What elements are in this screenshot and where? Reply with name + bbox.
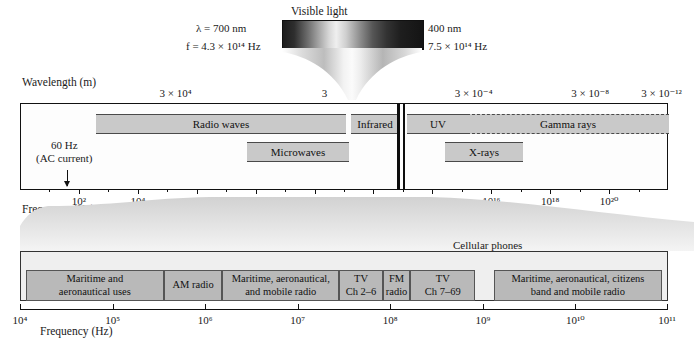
wavelength-tick-3: 3 × 10⁻⁸ (571, 88, 609, 99)
radio-band-line2: and mobile radio (232, 286, 330, 298)
top-axis-minor-tick (521, 189, 522, 192)
ac-current-line1: 60 Hz (36, 139, 93, 152)
bottom-axis-tick-0 (20, 304, 21, 309)
bottom-axis-tick-2 (205, 304, 206, 309)
bottom-axis-tick-6 (575, 304, 576, 309)
radio-band-am-radio: AM radio (164, 270, 222, 301)
radio-band-label: Maritime andaeronautical uses (59, 273, 131, 297)
radio-detail-panel: Maritime andaeronautical usesAM radioMar… (20, 251, 668, 301)
zoom-wedge (0, 196, 694, 251)
bottom-axis-tick-label-2: 10⁶ (198, 314, 213, 326)
spectrum-band-x-rays: X-rays (445, 142, 523, 162)
top-axis-tick-5 (373, 189, 374, 194)
radio-band-line1: FM (386, 273, 408, 285)
top-axis-tick-0 (79, 189, 80, 194)
wavelength-axis-title: Wavelength (m) (22, 77, 96, 89)
radio-band-maritime-aeronautical-citizens-band-and-mobile-radio: Maritime, aeronautical, citizensband and… (494, 270, 663, 301)
bottom-axis-tick-1 (113, 304, 114, 309)
radio-band-line1: Maritime and (59, 273, 131, 285)
visible-light-marker (397, 104, 400, 189)
full-spectrum-panel: Radio wavesInfraredUVGamma raysMicrowave… (20, 103, 668, 190)
visible-light-cone (282, 48, 422, 100)
band-label: Infrared (357, 118, 392, 130)
top-frequency-axis: 10²10⁴10⁶10⁸10¹⁰10¹²10¹⁴10¹⁶10¹⁸10²⁰ (20, 189, 668, 190)
radio-band-maritime-aeronautical-and-mobile-radio: Maritime, aeronautical,and mobile radio (222, 270, 339, 301)
top-axis-minor-tick (462, 189, 463, 192)
bottom-axis-tick-4 (390, 304, 391, 309)
top-axis-tick-8 (550, 189, 551, 194)
top-axis-minor-tick (226, 189, 227, 192)
cellular-phones-callout: Cellular phones (453, 240, 522, 251)
radio-band-line2: Ch 2–6 (346, 286, 377, 298)
band-label: UV (430, 118, 446, 130)
visible-left-wavelength: λ = 700 nm (196, 23, 246, 34)
band-label: X-rays (469, 146, 499, 158)
band-label: Radio waves (193, 118, 250, 130)
spectrum-band-infrared: Infrared (351, 114, 399, 134)
top-axis-minor-tick (580, 189, 581, 192)
radio-band-line1: TV (346, 273, 377, 285)
top-axis-minor-tick (285, 189, 286, 192)
top-axis-tick-3 (256, 189, 257, 194)
visible-right-frequency: 7.5 × 10¹⁴ Hz (428, 41, 487, 52)
radio-band-label: FMradio (386, 273, 408, 297)
ac-current-arrow-icon (67, 170, 68, 186)
ac-current-annotation: 60 Hz (AC current) (36, 139, 93, 165)
top-axis-tick-7 (491, 189, 492, 194)
wavelength-tick-0: 3 × 10⁴ (159, 88, 191, 99)
visible-light-title: Visible light (291, 6, 348, 18)
spectrum-band-gamma-rays: Gamma rays (467, 114, 669, 134)
radio-band-line2: aeronautical uses (59, 286, 131, 298)
wavelength-tick-4: 3 × 10⁻¹² (641, 88, 682, 99)
radio-band-label: AM radio (173, 279, 214, 291)
top-axis-minor-tick (108, 189, 109, 192)
top-axis-tick-9 (609, 189, 610, 194)
bottom-axis-tick-7 (667, 304, 668, 309)
radio-band-label: Maritime, aeronautical, citizensband and… (511, 273, 644, 297)
radio-band-line2: radio (386, 286, 408, 298)
top-axis-minor-tick (167, 189, 168, 192)
radio-band-line1: TV (425, 273, 461, 285)
top-axis-tick-4 (315, 189, 316, 194)
top-axis-minor-tick (403, 189, 404, 192)
radio-band-label: Maritime, aeronautical,and mobile radio (232, 273, 330, 297)
band-label: Microwaves (271, 146, 325, 158)
top-axis-minor-tick (344, 189, 345, 192)
radio-band-line1: AM radio (173, 279, 214, 291)
visible-spectrum-bar (282, 20, 424, 50)
bottom-axis-tick-label-6: 10¹⁰ (566, 314, 585, 327)
top-axis-tick-2 (197, 189, 198, 194)
radio-band-label: TVCh 2–6 (346, 273, 377, 297)
spectrum-band-microwaves: Microwaves (247, 142, 349, 162)
radio-band-maritime-and-aeronautical-uses: Maritime andaeronautical uses (26, 270, 164, 301)
wavelength-tick-2: 3 × 10⁻⁴ (455, 88, 493, 99)
bottom-axis-tick-label-0: 10⁴ (13, 314, 28, 326)
bottom-axis-tick-3 (298, 304, 299, 309)
bottom-axis-tick-5 (483, 304, 484, 309)
radio-band-line2: Ch 7–69 (425, 286, 461, 298)
top-axis-minor-tick (639, 189, 640, 192)
bottom-frequency-axis-title: Frequency (Hz) (40, 326, 112, 338)
bottom-frequency-axis: 10⁴10⁵10⁶10⁷10⁸10⁹10¹⁰10¹¹ (20, 309, 668, 310)
bottom-axis-tick-label-3: 10⁷ (290, 314, 305, 326)
bottom-axis-tick-label-7: 10¹¹ (658, 314, 676, 326)
wavelength-tick-1: 3 (322, 88, 328, 99)
radio-band-line1: Maritime, aeronautical, (232, 273, 330, 285)
spectrum-band-uv: UV (407, 114, 469, 134)
spectrum-band-radio-waves: Radio waves (96, 114, 346, 134)
radio-band-line1: Maritime, aeronautical, citizens (511, 273, 644, 285)
ac-current-line2: (AC current) (36, 152, 93, 165)
radio-band-tv-ch-7-69: TVCh 7–69 (410, 270, 475, 301)
em-spectrum-figure: Visible light λ = 700 nm f = 4.3 × 10¹⁴ … (0, 0, 694, 349)
bottom-axis-tick-label-5: 10⁹ (475, 314, 490, 326)
top-axis-tick-1 (138, 189, 139, 194)
visible-light-marker-edge (403, 104, 405, 189)
bottom-axis-tick-label-4: 10⁸ (383, 314, 398, 326)
top-axis-tick-6 (432, 189, 433, 194)
radio-band-label: TVCh 7–69 (425, 273, 461, 297)
radio-band-line2: band and mobile radio (511, 286, 644, 298)
visible-right-wavelength: 400 nm (428, 23, 461, 34)
radio-band-tv-ch-2-6: TVCh 2–6 (339, 270, 382, 301)
radio-band-fm-radio: FMradio (383, 270, 411, 301)
band-label: Gamma rays (540, 118, 596, 130)
